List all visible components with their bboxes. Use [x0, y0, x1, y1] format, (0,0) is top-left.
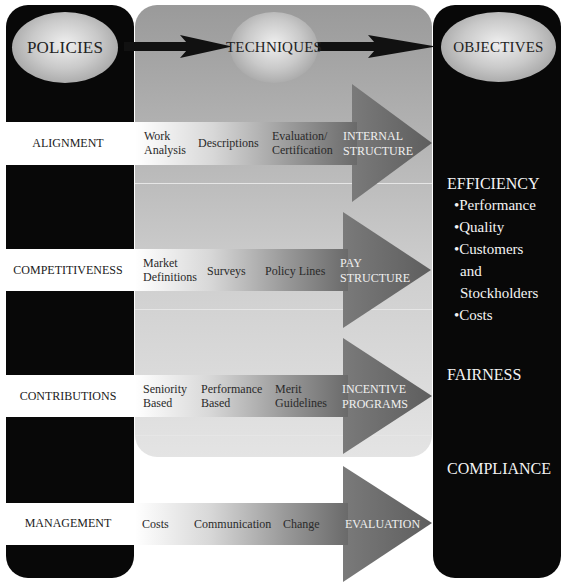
objective-efficiency-title: EFFICIENCY — [447, 175, 539, 193]
technique-change: Change — [283, 517, 320, 531]
connector-arrow-techniques-objectives — [314, 35, 436, 58]
objective-item: •Performance — [454, 194, 538, 216]
policies-header: POLICIES — [27, 38, 103, 58]
technique-work-analysis: Work Analysis — [144, 129, 186, 157]
objective-item: •Quality — [454, 216, 538, 238]
objective-fairness: FAIRNESS — [447, 366, 521, 384]
outcome-internal-structure: INTERNAL STRUCTURE — [343, 129, 413, 159]
technique-performance-based: Performance Based — [201, 382, 262, 410]
outcome-incentive-programs: INCENTIVE PROGRAMS — [342, 382, 408, 412]
objective-item: •Costs — [454, 304, 538, 326]
policy-label-competitiveness: COMPETITIVENESS — [0, 264, 136, 276]
objective-compliance: COMPLIANCE — [447, 460, 551, 478]
policy-label-contributions: CONTRIBUTIONS — [0, 390, 136, 402]
outcome-evaluation: EVALUATION — [345, 517, 420, 532]
technique-descriptions: Descriptions — [198, 136, 259, 150]
objective-item: Stockholders — [454, 282, 538, 304]
policy-label-management: MANAGEMENT — [0, 517, 136, 529]
objective-item: and — [454, 260, 538, 282]
technique-surveys: Surveys — [207, 264, 246, 278]
technique-evaluation-certification: Evaluation/ Certification — [272, 129, 333, 157]
techniques-header: TECHNIQUES — [226, 39, 322, 56]
connector-arrow-policies-techniques — [124, 35, 232, 58]
outcome-pay-structure: PAY STRUCTURE — [340, 256, 410, 286]
policy-label-alignment: ALIGNMENT — [0, 137, 136, 149]
technique-seniority-based: Seniority Based — [143, 382, 187, 410]
objective-efficiency-list: •Performance •Quality •Customers and Sto… — [454, 194, 538, 326]
technique-policy-lines: Policy Lines — [265, 264, 325, 278]
objectives-ellipse: OBJECTIVES — [441, 12, 556, 82]
objectives-header: OBJECTIVES — [453, 39, 543, 56]
technique-merit-guidelines: Merit Guidelines — [275, 382, 327, 410]
technique-costs: Costs — [142, 517, 169, 531]
objective-item: •Customers — [454, 238, 538, 260]
techniques-ellipse: TECHNIQUES — [230, 12, 318, 83]
technique-communication: Communication — [194, 517, 271, 531]
technique-market-definitions: Market Definitions — [143, 256, 197, 284]
policies-ellipse: POLICIES — [12, 12, 118, 83]
